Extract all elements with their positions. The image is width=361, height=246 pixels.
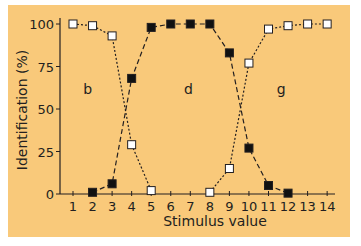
x-tick-label: 12 [280, 199, 297, 214]
y-tick-label: 75 [37, 60, 54, 75]
y-tick-label: 0 [46, 187, 54, 202]
data-point-b [128, 141, 136, 149]
x-tick-label: 10 [241, 199, 258, 214]
data-point-g [225, 165, 233, 173]
x-tick-label: 3 [108, 199, 116, 214]
data-point-g [284, 22, 292, 30]
data-point-b [108, 32, 116, 40]
data-point-d [186, 20, 194, 28]
x-tick-label: 5 [147, 199, 155, 214]
x-tick-label: 2 [88, 199, 96, 214]
x-axis-label: Stimulus value [163, 213, 267, 229]
x-tick-label: 14 [319, 199, 336, 214]
data-point-b [69, 20, 77, 28]
data-point-g [323, 20, 331, 28]
data-point-d [245, 144, 253, 152]
x-tick-label: 6 [167, 199, 175, 214]
chart-canvas: 02550751001234567891011121314 bdg Stimul… [0, 0, 361, 246]
y-axis-label: Identification (%) [14, 50, 30, 170]
data-point-g [245, 59, 253, 67]
data-point-g [206, 188, 214, 196]
y-tick-label: 50 [37, 102, 54, 117]
data-point-d [89, 188, 97, 196]
region-label-g: g [277, 81, 286, 97]
data-point-d [206, 20, 214, 28]
data-point-b [147, 187, 155, 195]
data-point-d [284, 189, 292, 197]
data-point-b [89, 22, 97, 30]
data-point-d [128, 74, 136, 82]
data-point-g [304, 20, 312, 28]
chart: 02550751001234567891011121314 bdg Stimul… [0, 0, 361, 246]
x-tick-label: 7 [186, 199, 194, 214]
x-tick-label: 4 [128, 199, 136, 214]
y-tick-label: 100 [29, 17, 54, 32]
data-point-d [108, 180, 116, 188]
x-tick-label: 8 [206, 199, 214, 214]
data-point-d [147, 23, 155, 31]
region-label-d: d [184, 81, 193, 97]
data-point-g [265, 25, 273, 33]
x-tick-label: 13 [299, 199, 316, 214]
data-point-d [225, 49, 233, 57]
x-tick-label: 1 [69, 199, 77, 214]
y-tick-label: 25 [37, 145, 54, 160]
region-label-b: b [83, 81, 92, 97]
x-tick-label: 11 [260, 199, 277, 214]
x-tick-label: 9 [225, 199, 233, 214]
data-point-d [265, 182, 273, 190]
data-point-d [167, 20, 175, 28]
